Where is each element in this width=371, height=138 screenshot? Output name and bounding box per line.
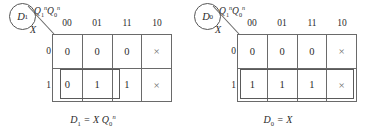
kmap-formula-d0: D0 = X (185, 113, 371, 127)
column-header: 11 (112, 15, 142, 31)
col-axis-q0: Q (47, 6, 54, 16)
kmap-cell: 1 (238, 69, 267, 102)
column-header: 01 (267, 15, 297, 31)
row-header: 1 (223, 68, 236, 102)
kmap-cell: 0 (82, 35, 112, 68)
formula-equals: = (277, 114, 284, 125)
formula-rhs: X (286, 114, 292, 125)
corner-label-text: D (17, 11, 24, 22)
kmap-row: 0 0 0 × (53, 35, 171, 68)
formula-equals: = (83, 114, 90, 125)
column-axis-label-d0: Q1nQ0n (219, 4, 245, 18)
formula-rhs-sub: 0 (109, 120, 112, 127)
column-axis-label-d1: Q1nQ0n (34, 4, 60, 18)
formula-lhs-sub: 1 (78, 120, 81, 127)
kmap-cell: 0 (53, 69, 82, 102)
kmap-row: 0 0 0 × (238, 35, 356, 68)
kmap-cell: 1 (267, 69, 297, 102)
kmap-cell-dontcare: × (326, 35, 356, 68)
kmap-cell-dontcare: × (326, 69, 356, 102)
kmap-cell: 1 (297, 69, 327, 102)
row-header: 0 (223, 34, 236, 68)
formula-lhs: D (70, 114, 77, 125)
kmap-cell: 0 (267, 35, 297, 68)
kmap-corner-label-circle-d0: D0 (194, 3, 221, 30)
kmap-grid-d1: 0 0 0 × 0 1 1 × (52, 34, 172, 102)
column-header: 01 (82, 15, 112, 31)
kmap-figure-d0: D0 Q1nQ0n X 00 01 11 10 0 1 0 0 0 × 1 1 … (185, 0, 371, 138)
column-header: 11 (297, 15, 327, 31)
kmap-cell: 1 (112, 69, 142, 102)
corner-label-subscript: 1 (25, 13, 28, 21)
corner-label-subscript: 0 (210, 13, 213, 21)
kmap-corner-label-circle-d1: D1 (9, 3, 36, 30)
formula-rhs: X Q (93, 114, 109, 125)
row-header: 1 (38, 68, 51, 102)
kmap-grid-d0: 0 0 0 × 1 1 1 × (237, 34, 357, 102)
column-header: 10 (142, 15, 172, 31)
kmap-formula-d1: D1 = X Q0n (0, 113, 186, 127)
kmap-cell: 0 (53, 35, 82, 68)
kmap-row: 0 1 1 × (53, 68, 171, 102)
kmap-figure-d1: D1 Q1nQ0n X 00 01 11 10 0 1 0 0 0 × 0 1 … (0, 0, 186, 138)
col-axis-q0-sup: n (242, 4, 245, 11)
kmap-cell-dontcare: × (141, 69, 171, 102)
col-axis-q0-sub: 0 (239, 11, 242, 18)
formula-lhs-sub: 0 (271, 120, 274, 127)
formula-rhs-sup: n (112, 113, 115, 120)
row-headers-d1: 0 1 (38, 34, 51, 102)
column-headers-d1: 00 01 11 10 (52, 15, 172, 31)
formula-lhs: D (264, 114, 271, 125)
corner-label-text: D (202, 11, 209, 22)
row-header: 0 (38, 34, 51, 68)
kmap-cell: 0 (297, 35, 327, 68)
column-header: 10 (327, 15, 357, 31)
kmap-cell: 0 (238, 35, 267, 68)
col-axis-q0-sup: n (57, 4, 60, 11)
col-axis-q1-sub: 1 (226, 11, 229, 18)
col-axis-q1-sub: 1 (41, 11, 44, 18)
row-headers-d0: 0 1 (223, 34, 236, 102)
col-axis-q0: Q (232, 6, 239, 16)
column-headers-d0: 00 01 11 10 (237, 15, 357, 31)
kmap-row: 1 1 1 × (238, 68, 356, 102)
kmap-cell-dontcare: × (141, 35, 171, 68)
kmap-cell: 1 (82, 69, 112, 102)
col-axis-q0-sub: 0 (54, 11, 57, 18)
kmap-cell: 0 (112, 35, 142, 68)
